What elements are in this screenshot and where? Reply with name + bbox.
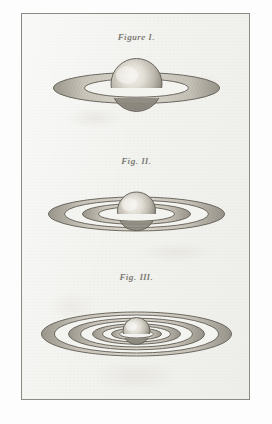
plate-scan: Figure I. — [0, 0, 272, 424]
saturn-two-ring-illustration — [22, 166, 251, 258]
figure-2-block: Fig. II. — [22, 156, 251, 258]
plate-border-frame: Figure I. — [21, 13, 250, 400]
figure-1-globe-underside — [114, 98, 159, 112]
saturn-single-ring-illustration — [22, 42, 251, 134]
figure-3-block: Fig. III. — [22, 272, 251, 382]
figure-1-label: Figure I. — [22, 32, 251, 42]
figure-2-art — [22, 166, 251, 258]
figure-1-block: Figure I. — [22, 32, 251, 134]
figure-3-art — [22, 282, 251, 382]
figure-3-label: Fig. III. — [22, 272, 251, 282]
saturn-four-ring-illustration — [22, 282, 251, 382]
figure-1-art — [22, 42, 251, 134]
figure-2-label: Fig. II. — [22, 156, 251, 166]
